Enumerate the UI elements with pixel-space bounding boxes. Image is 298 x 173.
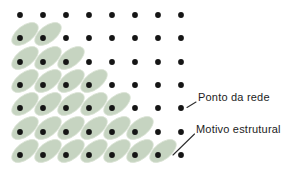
- lattice-dot: [178, 82, 184, 88]
- lattice-dot: [63, 105, 69, 111]
- lattice-dot: [63, 35, 69, 41]
- lattice-dot: [17, 12, 23, 18]
- lattice-dot: [155, 105, 161, 111]
- lattice-dot: [63, 129, 69, 135]
- lattice-dot: [109, 12, 115, 18]
- lattice-dot: [109, 35, 115, 41]
- lattice-dot: [86, 129, 92, 135]
- lattice-dot: [63, 82, 69, 88]
- lattice-dot: [86, 82, 92, 88]
- lattice-motif-svg: [0, 0, 298, 173]
- lattice-dot: [40, 12, 46, 18]
- lattice-dot: [17, 152, 23, 158]
- lattice-dot: [132, 59, 138, 65]
- lattice-dot: [178, 59, 184, 65]
- lattice-dot: [40, 152, 46, 158]
- lattice-motif-figure: Ponto da rede Motivo estrutural: [0, 0, 298, 173]
- lattice-dot: [155, 82, 161, 88]
- motif-ellipses: [8, 18, 181, 167]
- lattice-dot: [109, 129, 115, 135]
- lattice-dot: [17, 105, 23, 111]
- lattice-dot: [132, 152, 138, 158]
- lattice_point-leader-line: [187, 102, 196, 108]
- lattice-dot: [17, 82, 23, 88]
- lattice-dot: [132, 105, 138, 111]
- lattice-dot: [109, 59, 115, 65]
- lattice-dot: [17, 129, 23, 135]
- lattice-dot: [86, 105, 92, 111]
- lattice-dot: [155, 59, 161, 65]
- lattice-dot: [17, 59, 23, 65]
- lattice-point-label: Ponto da rede: [198, 91, 270, 103]
- lattice-dot: [132, 35, 138, 41]
- lattice-dot: [40, 59, 46, 65]
- lattice-dot: [40, 35, 46, 41]
- lattice-dot: [155, 152, 161, 158]
- lattice-dot: [109, 105, 115, 111]
- lattice-dot: [109, 82, 115, 88]
- lattice-dot: [40, 105, 46, 111]
- lattice-dot: [17, 35, 23, 41]
- lattice-dot: [86, 59, 92, 65]
- lattice-dot: [132, 82, 138, 88]
- lattice-dot: [155, 12, 161, 18]
- lattice-dot: [63, 59, 69, 65]
- lattice-dot: [178, 35, 184, 41]
- lattice-dot: [178, 129, 184, 135]
- lattice-dot: [178, 105, 184, 111]
- lattice-dot: [178, 152, 184, 158]
- lattice-dot: [40, 129, 46, 135]
- lattice-dot: [132, 12, 138, 18]
- lattice-dot: [86, 35, 92, 41]
- lattice-dot: [86, 12, 92, 18]
- lattice-dot: [178, 12, 184, 18]
- lattice-dot: [109, 152, 115, 158]
- lattice-dot: [155, 129, 161, 135]
- motif-label: Motivo estrutural: [196, 123, 281, 135]
- lattice-dot: [63, 152, 69, 158]
- lattice-dot: [155, 35, 161, 41]
- lattice-dot: [86, 152, 92, 158]
- lattice-dot: [40, 82, 46, 88]
- lattice-dot: [132, 129, 138, 135]
- lattice-dot: [63, 12, 69, 18]
